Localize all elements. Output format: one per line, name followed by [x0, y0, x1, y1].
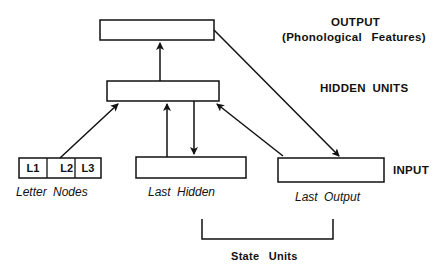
letter-nodes-label: Letter Nodes	[16, 185, 88, 199]
hidden-layer-label: HIDDEN UNITS	[320, 82, 408, 94]
output-layer-sublabel: (Phonological Features)	[282, 31, 426, 43]
last-hidden-label: Last Hidden	[148, 185, 215, 199]
letter-node-l3: L3	[75, 158, 101, 178]
state-units-bracket	[202, 219, 333, 239]
last-output-label: Last Output	[295, 190, 360, 204]
letter-node-l2: L2	[47, 158, 75, 178]
arrow-letters-to-hidden	[60, 104, 118, 158]
hidden-box	[107, 81, 219, 101]
last-hidden-box	[136, 157, 246, 178]
output-layer-label: OUTPUT	[331, 16, 380, 28]
arrow-lastoutput-to-hidden	[217, 104, 283, 156]
last-output-box	[278, 158, 384, 182]
letter-node-l1: L1	[19, 158, 47, 178]
input-layer-label: INPUT	[393, 164, 429, 176]
output-box	[100, 20, 214, 40]
state-units-label: State Units	[231, 250, 298, 262]
